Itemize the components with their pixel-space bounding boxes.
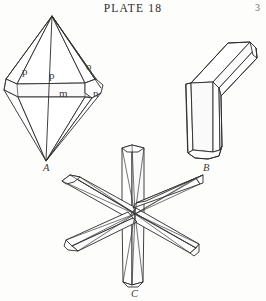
plate-illustration-canvas [0, 0, 266, 301]
face-label-n: n [93, 88, 99, 99]
figure-caption-c: C [131, 289, 138, 300]
face-label-p-center: p [49, 70, 55, 81]
face-label-p-left: p [22, 66, 28, 77]
figure-caption-a: A [43, 163, 49, 174]
face-label-m: m [59, 88, 68, 99]
figure-a-drawing [4, 16, 103, 161]
figure-b-drawing [186, 42, 257, 159]
figure-c-drawing [62, 145, 203, 287]
face-label-o: o [86, 61, 92, 72]
figure-caption-b: B [203, 163, 209, 174]
